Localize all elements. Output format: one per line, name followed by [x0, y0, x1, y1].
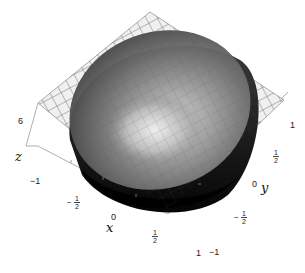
x-tick-neg-half: − 1 2: [74, 195, 80, 210]
x-tick-neg1: −1: [30, 177, 40, 186]
x-axis-label: x: [106, 221, 113, 234]
y-tick-neg-half: − 1 2: [241, 210, 247, 225]
x-tick-1: 1: [196, 249, 201, 258]
z-axis-label: z: [15, 150, 22, 163]
y-tick-neg1: −1: [209, 248, 219, 257]
y-tick-1: 1: [290, 121, 295, 130]
z-axis-line: [26, 103, 38, 146]
y-tick-0: 0: [252, 180, 257, 189]
y-axis-label: y: [261, 181, 268, 194]
z-tick-6: 6: [18, 117, 23, 126]
y-tick-half: 1 2: [273, 149, 279, 164]
x-tick-half: 1 2: [152, 229, 158, 244]
